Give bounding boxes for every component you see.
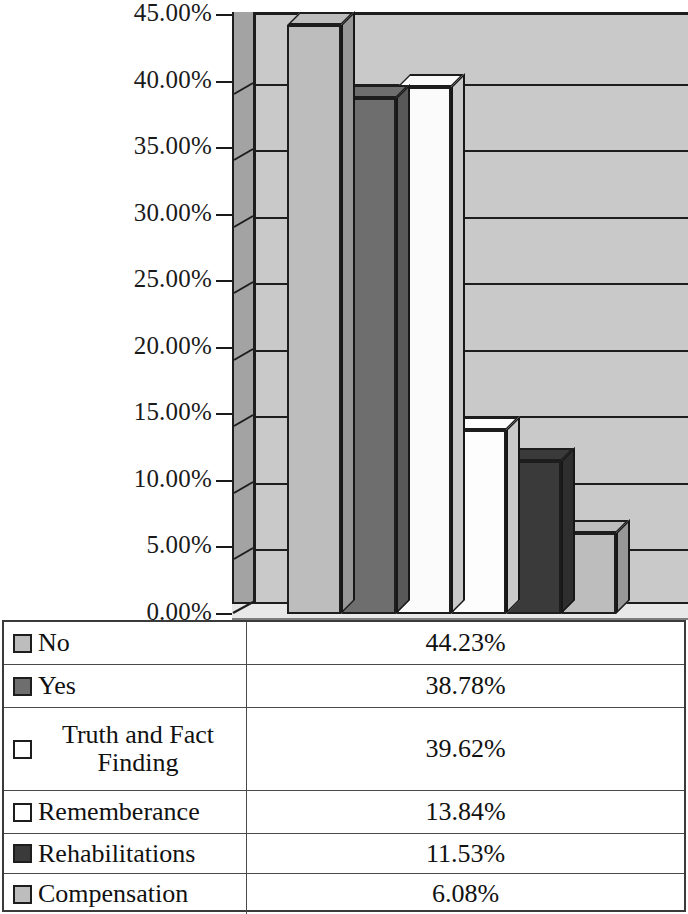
legend-value-cell: 39.62% (247, 708, 684, 790)
y-axis-tick-mark (216, 413, 232, 415)
bar-chart-3d: 45.00%40.00%35.00%30.00%25.00%20.00%15.0… (0, 0, 688, 620)
side-wall-tick (234, 548, 254, 561)
y-axis-tick-mark (216, 81, 232, 83)
bar-side-face (561, 447, 575, 614)
y-axis-tick-mark (216, 613, 232, 615)
legend-table-row: Truth and Fact Finding39.62% (4, 708, 684, 791)
y-axis: 45.00%40.00%35.00%30.00%25.00%20.00%15.0… (0, 0, 212, 620)
legend-label-text: Truth and Fact Finding (38, 721, 246, 777)
legend-value-table: No44.23%Yes38.78%Truth and Fact Finding3… (2, 620, 686, 912)
bar-side-face (341, 11, 355, 614)
y-axis-tick-mark (216, 480, 232, 482)
bar-front-face (287, 25, 341, 614)
y-axis-tick-label: 25.00% (0, 266, 212, 291)
legend-table-row: Compensation6.08% (4, 874, 684, 914)
legend-label-text: Yes (38, 672, 246, 700)
y-axis-tick-label: 35.00% (0, 133, 212, 158)
legend-value-cell: 6.08% (247, 874, 684, 914)
side-wall-tick (234, 215, 254, 228)
side-wall-tick (234, 148, 254, 161)
floor-corner-diagonal (232, 600, 256, 614)
y-axis-tick-label: 45.00% (0, 0, 212, 25)
legend-swatch-truth-and-fact-finding (13, 740, 32, 759)
y-axis-tick-label: 10.00% (0, 466, 212, 491)
legend-label-text: Compensation (38, 880, 246, 908)
y-axis-tick-label: 15.00% (0, 399, 212, 424)
legend-table-row: Rehabilitations11.53% (4, 834, 684, 874)
legend-swatch-no (13, 634, 32, 653)
y-axis-tick-mark (216, 147, 232, 149)
bar-side-face (396, 84, 410, 614)
plot-area (232, 0, 688, 620)
legend-swatch-rehabilitations (13, 844, 32, 863)
side-wall-tick (234, 481, 254, 494)
side-wall-tick (234, 414, 254, 427)
legend-swatch-compensation (13, 885, 32, 904)
legend-swatch-yes (13, 677, 32, 696)
side-wall-tick (234, 348, 254, 361)
y-axis-tick-mark (216, 280, 232, 282)
legend-label-cell: Rememberance (4, 791, 247, 833)
legend-value-cell: 13.84% (247, 791, 684, 833)
y-axis-tick-mark (216, 347, 232, 349)
side-wall-tick (234, 281, 254, 294)
legend-table-row: Rememberance13.84% (4, 791, 684, 834)
y-axis-tick-mark (216, 546, 232, 548)
legend-value-cell: 38.78% (247, 665, 684, 707)
y-axis-tick-label: 40.00% (0, 67, 212, 92)
bar-side-face (451, 73, 465, 614)
y-axis-tick-label: 5.00% (0, 532, 212, 557)
legend-label-cell: No (4, 622, 247, 664)
side-wall-tick (234, 82, 254, 95)
legend-label-cell: Yes (4, 665, 247, 707)
bar-no (287, 25, 341, 614)
wall-corner-edge (253, 12, 256, 614)
legend-table-row: No44.23% (4, 622, 684, 665)
legend-swatch-rememberance (13, 803, 32, 822)
legend-label-text: No (38, 629, 246, 657)
bar-side-face (506, 416, 520, 614)
y-axis-tick-mark (216, 214, 232, 216)
legend-value-cell: 44.23% (247, 622, 684, 664)
legend-label-text: Rehabilitations (38, 840, 246, 868)
legend-label-cell: Rehabilitations (4, 834, 247, 873)
legend-table-row: Yes38.78% (4, 665, 684, 708)
y-axis-tick-mark (216, 14, 232, 16)
legend-label-cell: Compensation (4, 874, 247, 914)
y-axis-tick-label: 20.00% (0, 333, 212, 358)
y-axis-tick-label: 30.00% (0, 200, 212, 225)
legend-label-text: Rememberance (38, 798, 246, 826)
legend-value-cell: 11.53% (247, 834, 684, 873)
bar-side-face (616, 519, 630, 614)
legend-label-cell: Truth and Fact Finding (4, 708, 247, 790)
